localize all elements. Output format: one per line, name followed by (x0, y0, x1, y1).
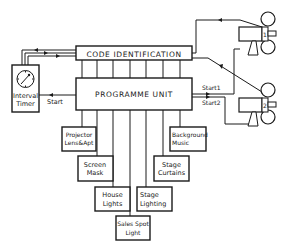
film-projector-icon: 1 (239, 12, 276, 55)
output-label: Curtains (158, 169, 186, 177)
output-label: Background (172, 131, 208, 139)
output-label: Screen (84, 161, 106, 169)
output-label: Stage (140, 191, 159, 199)
clock-dial-icon (17, 71, 34, 88)
start-link: Start (39, 93, 76, 106)
output-stage-lighting: Stage Lighting (137, 187, 172, 211)
diagram-canvas: CODE IDENTIFICATION PROGRAMME UNIT Inter… (0, 0, 290, 252)
start2-label: Start2 (202, 99, 221, 106)
output-label: Lights (103, 200, 123, 208)
programme-unit-block: PROGRAMME UNIT (76, 78, 192, 110)
code-to-programme-links (82, 60, 180, 78)
output-label: Projector (66, 131, 93, 139)
output-stage-curtains: Stage Curtains (154, 156, 189, 181)
start1-label: Start1 (202, 84, 221, 91)
output-label: Music (172, 139, 189, 146)
output-label: Lens&Apt (65, 139, 94, 147)
projector2-number: 2 (263, 102, 267, 109)
output-label: Lighting (140, 200, 166, 208)
output-label: Mask (87, 169, 104, 177)
programme-unit-label: PROGRAMME UNIT (95, 90, 173, 99)
code-identification-block: CODE IDENTIFICATION (76, 46, 192, 60)
output-label: Light (126, 229, 142, 237)
output-sales-spot-light: Sales Spot Light (116, 216, 150, 240)
code-identification-label: CODE IDENTIFICATION (86, 50, 181, 59)
interval-timer-block: Interval Timer (12, 65, 39, 112)
output-background-music: Background Music (170, 127, 208, 151)
output-label: House (102, 191, 122, 199)
interval-timer-line2: Timer (15, 100, 35, 108)
start-label: Start (47, 98, 63, 106)
projector1-number: 1 (263, 31, 267, 38)
start-lines: Start1 Start2 (192, 49, 251, 124)
timer-to-code-bus (22, 48, 76, 65)
output-label: Sales Spot (117, 220, 149, 228)
output-projector-lens: Projector Lens&Apt (62, 127, 96, 151)
output-house-lights: House Lights (95, 187, 130, 211)
output-screen-mask: Screen Mask (78, 156, 113, 181)
output-label: Stage (162, 161, 181, 169)
interval-timer-line1: Interval (13, 92, 38, 100)
